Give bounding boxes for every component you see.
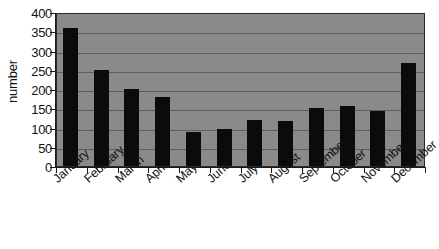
x-axis-tick-mark xyxy=(118,168,119,173)
y-axis-tick-mark xyxy=(50,52,55,53)
x-axis-tick-mark xyxy=(210,168,211,173)
x-axis-tick-label: May xyxy=(174,161,200,186)
x-axis-tick-mark xyxy=(271,168,272,173)
x-axis-tick-mark xyxy=(56,168,57,173)
y-axis-tick-mark xyxy=(50,109,55,110)
x-axis-tick-mark xyxy=(333,168,334,173)
bar-chart: number 400350300250200150100500 JanuaryF… xyxy=(0,0,439,249)
x-axis-tick-mark xyxy=(241,168,242,173)
y-axis-tick-mark xyxy=(50,13,55,14)
y-axis-tick-mark xyxy=(50,167,55,168)
x-axis-tick-mark xyxy=(364,168,365,173)
x-axis-tick-mark xyxy=(394,168,395,173)
x-axis-tick-mark xyxy=(87,168,88,173)
x-axis-tick-label: April xyxy=(143,160,170,186)
y-axis-tick-mark xyxy=(50,90,55,91)
x-axis-tick-label: July xyxy=(236,162,261,186)
x-axis-tick-mark xyxy=(179,168,180,173)
x-axis-tick-labels: JanuaryFebruaryMarchAprilMayJuneJulyAugu… xyxy=(0,0,439,249)
y-axis-tick-mark xyxy=(50,148,55,149)
x-axis-tick-mark xyxy=(148,168,149,173)
y-axis-tick-mark xyxy=(50,71,55,72)
y-axis-tick-mark xyxy=(50,32,55,33)
x-axis-tick-mark xyxy=(302,168,303,173)
y-axis-tick-mark xyxy=(50,129,55,130)
x-axis-tick-mark xyxy=(425,168,426,173)
